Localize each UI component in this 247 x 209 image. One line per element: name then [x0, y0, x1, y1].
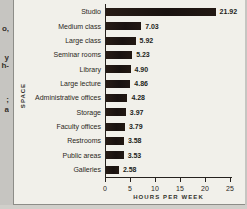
value-label: 5.23: [136, 50, 150, 59]
value-label: 3.53: [128, 151, 142, 160]
margin-text-fragment: y: [0, 54, 9, 62]
x-axis-tick: [230, 178, 231, 181]
margin-text-fragment: h-: [0, 62, 9, 70]
bar: [106, 65, 131, 73]
bar: [106, 123, 125, 131]
value-label: 3.97: [130, 108, 144, 117]
value-label: 7.03: [145, 22, 159, 31]
category-label: Galleries: [73, 165, 101, 174]
value-label: 5.92: [140, 36, 154, 45]
value-label: 3.58: [128, 136, 142, 145]
y-axis-title: SPACE: [20, 76, 27, 116]
category-label: Studio: [81, 7, 101, 16]
category-label: Large class: [65, 36, 101, 45]
bar: [106, 166, 119, 174]
figure-left-rule: [13, 0, 14, 205]
x-tick-label: 10: [148, 185, 162, 193]
value-label: 4.86: [134, 79, 148, 88]
category-label: Storage: [76, 108, 101, 117]
category-label: Medium class: [58, 22, 101, 31]
bar: [106, 108, 126, 116]
value-label: 2.58: [123, 165, 137, 174]
margin-text-fragment: a: [0, 106, 9, 114]
value-label: 4.90: [135, 65, 149, 74]
x-tick-label: 0: [98, 185, 112, 193]
bar: [106, 51, 132, 59]
bar: [106, 80, 130, 88]
bar: [106, 137, 124, 145]
category-label: Administrative offices: [35, 93, 101, 102]
category-label: Restrooms: [67, 136, 101, 145]
x-tick-label: 5: [123, 185, 137, 193]
bar: [106, 8, 216, 16]
x-axis-title: HOURS PER WEEK: [105, 194, 232, 201]
x-axis-tick: [155, 178, 156, 181]
x-tick-label: 20: [198, 185, 212, 193]
category-label: Large lecture: [60, 79, 101, 88]
bar: [106, 22, 141, 30]
value-label: 4.28: [131, 93, 145, 102]
x-tick-label: 25: [223, 185, 237, 193]
page-margin-bottom: [0, 205, 247, 209]
margin-text-fragment: o,: [0, 25, 9, 33]
category-label: Library: [80, 65, 101, 74]
x-axis-line: [105, 177, 232, 178]
x-axis-tick: [205, 178, 206, 181]
bar: [106, 94, 127, 102]
scanned-page-figure: o,yh-;a Studio21.92Medium class7.03Large…: [0, 0, 247, 209]
category-label: Seminar rooms: [54, 50, 101, 59]
value-label: 21.92: [220, 7, 238, 16]
margin-text-fragment: ;: [0, 96, 9, 104]
x-axis-tick: [105, 178, 106, 181]
category-label: Public areas: [62, 151, 101, 160]
bar: [106, 37, 136, 45]
bar: [106, 151, 124, 159]
x-axis-tick: [180, 178, 181, 181]
value-label: 3.79: [129, 122, 143, 131]
category-label: Faculty offices: [56, 122, 101, 131]
x-axis-tick: [130, 178, 131, 181]
x-tick-label: 15: [173, 185, 187, 193]
